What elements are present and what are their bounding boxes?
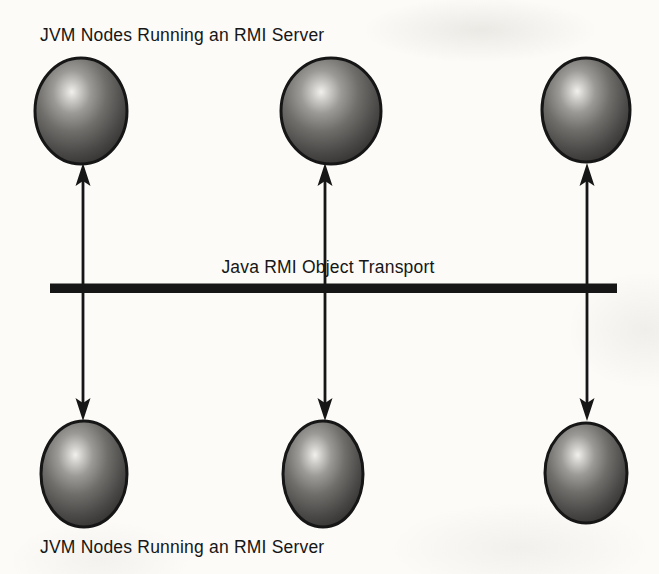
top-caption: JVM Nodes Running an RMI Server (40, 25, 324, 45)
bottom-caption: JVM Nodes Running an RMI Server (40, 537, 324, 557)
rmi-architecture-diagram: JVM Nodes Running an RMI Server Java RMI… (0, 0, 659, 574)
sphere-icon-jvm-node-top-3 (542, 58, 630, 162)
sphere-icon-jvm-node-top-2 (281, 58, 381, 164)
scanned-figure-page: JVM Nodes Running an RMI Server Java RMI… (0, 0, 659, 574)
sphere-icon-jvm-node-bottom-3 (545, 423, 627, 523)
sphere-icon-jvm-node-bottom-2 (283, 421, 363, 527)
bus-label: Java RMI Object Transport (221, 257, 434, 277)
sphere-icon-jvm-node-bottom-1 (41, 421, 127, 527)
sphere-icon-jvm-node-top-1 (35, 58, 127, 164)
transport-bus-bar (50, 284, 617, 294)
